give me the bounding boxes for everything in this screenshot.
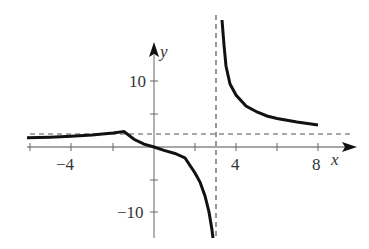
x-tick-label-8: 8 [312, 155, 321, 174]
x-tick-label-neg4: −4 [56, 155, 75, 174]
y-axis-arrow-icon [149, 42, 159, 57]
y-axis-label: y [158, 42, 168, 61]
x-tick-label-4: 4 [231, 155, 240, 174]
y-tick-label-neg10: −10 [117, 203, 144, 222]
y-tick-label-10: 10 [129, 72, 146, 91]
function-graph: −4 4 8 x 10 −10 y [0, 0, 369, 249]
x-axis-label: x [330, 150, 339, 169]
curve-right-branch [222, 20, 318, 125]
